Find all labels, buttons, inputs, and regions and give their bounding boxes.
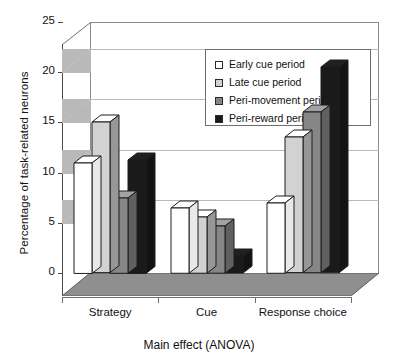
bar-3d-body [267,196,294,273]
y-tick-label: 10 [29,165,55,177]
grid-depth-line [62,99,91,123]
bar-3d-body [74,156,101,273]
bar-cue-early-cue-period [171,208,189,273]
x-tick-mark [351,297,352,303]
plot-area: Early cue periodLate cue periodPeri-move… [62,22,379,296]
y-tick-label: 20 [29,64,55,76]
legend-swatch-icon [215,97,223,105]
x-tick-mark [255,297,256,303]
y-tick-label: 15 [29,114,55,126]
y-tick-label: 5 [29,215,55,227]
x-tick-mark [158,297,159,303]
chart-figure: Percentage of task-related neurons 05101… [0,0,398,363]
bar-3d-body [171,201,198,273]
legend-swatch-icon [215,61,223,69]
legend-label: Peri-movement period [229,95,332,106]
legend-swatch-icon [215,79,223,87]
legend-label: Early cue period [229,59,305,70]
grid-depth-line [62,49,91,73]
legend-swatch-icon [215,115,223,123]
x-category-label: Response choice [255,306,351,318]
x-tick-mark [62,297,63,303]
x-axis-title: Main effect (ANOVA) [0,338,398,352]
x-category-label: Cue [158,306,254,318]
x-axis-line [62,297,351,298]
bar-strategy-early-cue-period [74,163,92,273]
axis-depth-edge [62,22,91,45]
bar-response-choice-early-cue-period [267,203,285,273]
y-tick-label: 25 [29,14,55,26]
x-category-label: Strategy [62,306,158,318]
chart-floor [62,273,379,296]
y-tick-label: 0 [29,265,55,277]
legend-label: Late cue period [229,77,301,88]
